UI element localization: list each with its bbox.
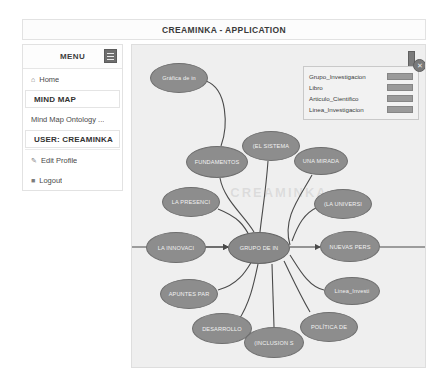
mindmap-node[interactable]: Gráfica de in	[150, 63, 208, 93]
legend-color-swatch	[387, 84, 413, 91]
legend-item-label: Grupo_Investigacion	[309, 73, 366, 80]
mindmap-node[interactable]: (LA UNIVERSI	[314, 189, 372, 219]
legend-item: Grupo_Investigacion	[309, 71, 413, 82]
sidebar-item-user-label: USER: CREAMINKA	[34, 135, 113, 144]
node-label: NUEVAS PERS	[327, 244, 372, 250]
sidebar-item-edit-profile[interactable]: ✎ Edit Profile	[23, 150, 122, 170]
node-label: GRUPO DE IN	[238, 245, 281, 251]
page-title: CREAMINKA - APPLICATION	[162, 25, 286, 35]
app-header: CREAMINKA - APPLICATION	[22, 19, 426, 40]
legend-item-label: Linea_Investigacion	[309, 106, 364, 113]
legend-item-label: Libro	[309, 84, 323, 91]
mindmap-node[interactable]: UNA MIRADA	[294, 147, 348, 175]
legend-color-swatch	[387, 106, 413, 113]
legend-item: Articulo_Cientifico	[309, 93, 413, 104]
sidebar-item-edit-profile-label: Edit Profile	[41, 156, 77, 165]
mindmap-node-center[interactable]: GRUPO DE IN	[228, 232, 290, 264]
hamburger-bars	[107, 56, 114, 57]
sidebar-header: MENU	[23, 45, 122, 69]
power-icon: ■	[31, 177, 35, 184]
legend-panel[interactable]: ✕ Grupo_Investigacion Libro Articulo_Cie…	[303, 66, 419, 120]
sidebar-item-mind-map-label: MIND MAP	[34, 95, 76, 104]
legend-color-swatch	[387, 95, 413, 102]
sidebar-item-logout-label: Logout	[39, 176, 62, 185]
node-label: Linea_Investi	[333, 288, 372, 294]
mindmap-node[interactable]: Linea_Investi	[324, 277, 380, 305]
sidebar-menu-label: MENU	[60, 52, 85, 61]
legend-color-swatch	[387, 73, 413, 80]
mindmap-node[interactable]: POLÍTICA DE	[300, 312, 358, 342]
mindmap-node[interactable]: LA PRESENCI	[162, 187, 220, 217]
mindmap-node[interactable]: DESARROLLO	[192, 313, 252, 344]
sidebar: MENU ⌂ Home MIND MAP Mind Map Ontology .…	[22, 44, 123, 191]
sidebar-item-mind-map[interactable]: MIND MAP	[25, 90, 120, 108]
sidebar-item-logout[interactable]: ■ Logout	[23, 170, 122, 190]
mindmap-node[interactable]: (EL SISTEMA	[242, 131, 300, 161]
sidebar-item-mind-map-ontology-label: Mind Map Ontology ...	[31, 115, 104, 124]
mindmap-node[interactable]: (INCLUSION S	[244, 327, 304, 358]
mindmap-node[interactable]: APUNTES PAR	[160, 279, 218, 309]
home-icon: ⌂	[31, 76, 35, 83]
node-label: LA INNOVACI	[156, 245, 196, 251]
node-label: (INCLUSION S	[252, 340, 295, 346]
sidebar-item-user[interactable]: USER: CREAMINKA	[25, 130, 120, 148]
sidebar-item-mind-map-ontology[interactable]: Mind Map Ontology ...	[23, 109, 122, 129]
hamburger-icon[interactable]	[104, 49, 117, 63]
pencil-icon: ✎	[31, 157, 37, 164]
node-label: Gráfica de in	[160, 75, 198, 81]
sidebar-item-home-label: Home	[39, 75, 59, 84]
mindmap-node[interactable]: LA INNOVACI	[146, 232, 206, 263]
node-label: UNA MIRADA	[301, 158, 341, 164]
close-icon[interactable]: ✕	[413, 59, 426, 72]
node-label: POLÍTICA DE	[309, 324, 349, 330]
node-label: DESARROLLO	[200, 326, 244, 332]
legend-item: Linea_Investigacion	[309, 104, 413, 115]
legend-item-label: Articulo_Cientifico	[309, 95, 359, 102]
node-label: FUNDAMENTOS	[193, 159, 242, 165]
node-label: (LA UNIVERSI	[322, 201, 364, 207]
node-label: (EL SISTEMA	[251, 143, 291, 149]
legend-item: Libro	[309, 82, 413, 93]
mindmap-node[interactable]: NUEVAS PERS	[320, 231, 380, 262]
mindmap-node[interactable]: FUNDAMENTOS	[186, 146, 248, 178]
sidebar-item-home[interactable]: ⌂ Home	[23, 69, 122, 89]
node-label: APUNTES PAR	[167, 291, 212, 297]
node-label: LA PRESENCI	[170, 199, 212, 205]
mindmap-panel[interactable]: CREAMINKA	[131, 44, 426, 368]
